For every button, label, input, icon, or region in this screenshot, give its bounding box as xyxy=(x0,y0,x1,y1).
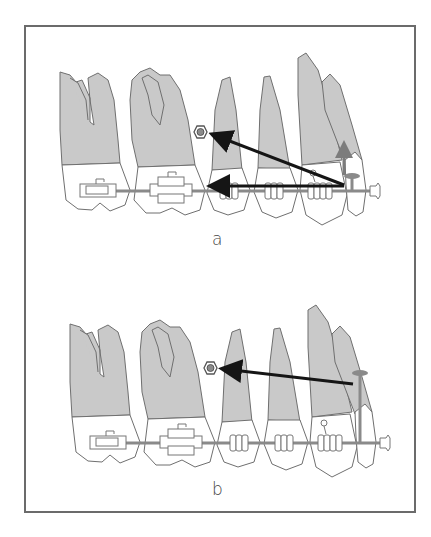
diagram-canvas xyxy=(0,0,431,537)
miniscrew-icon-b xyxy=(204,362,217,374)
panel-label-b: b xyxy=(212,479,223,499)
panel-label-a: a xyxy=(212,229,222,249)
panel-b xyxy=(70,305,390,477)
dentition-a xyxy=(60,53,380,225)
dentition-b xyxy=(70,305,390,477)
panel-a xyxy=(60,53,380,225)
miniscrew-icon-a xyxy=(194,126,207,138)
